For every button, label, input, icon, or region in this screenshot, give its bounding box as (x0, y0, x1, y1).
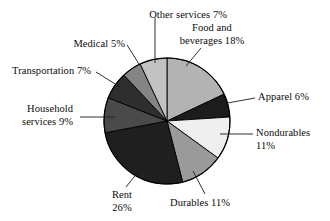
pie-label-medical: Medical 5% (0, 38, 125, 51)
pie-label-line1-nondurables: Nondurables (256, 127, 310, 140)
pie-label-line1-apparel: Apparel 6% (258, 91, 309, 104)
pie-label-line2-household-services: services 9% (0, 116, 73, 129)
pie-label-household-services: Householdservices 9% (0, 103, 73, 128)
leader-line-medical (127, 45, 139, 64)
pie-label-line1-other-services: Other services 7% (0, 9, 227, 22)
pie-label-rent: Rent26% (52, 189, 192, 214)
pie-label-line1-medical: Medical 5% (0, 38, 125, 51)
pie-chart-figure: Food andbeverages 18%Apparel 6%Nondurabl… (0, 0, 330, 221)
pie-label-line1-household-services: Household (0, 103, 73, 116)
pie-label-line1-transportation: Transportation 7% (0, 65, 91, 78)
pie-label-apparel: Apparel 6% (258, 91, 309, 104)
pie-label-food-and-beverages: Food andbeverages 18% (142, 22, 282, 47)
pie-label-line2-food-and-beverages: beverages 18% (142, 35, 282, 48)
pie-label-line1-food-and-beverages: Food and (142, 22, 282, 35)
pie-label-line2-nondurables: 11% (256, 140, 310, 153)
pie-label-transportation: Transportation 7% (0, 65, 91, 78)
leader-line-rent (126, 172, 138, 187)
leader-line-transportation (96, 72, 120, 87)
pie-label-line1-rent: Rent (52, 189, 192, 202)
pie-label-line2-rent: 26% (52, 202, 192, 215)
pie-label-nondurables: Nondurables11% (256, 127, 310, 152)
pie-label-other-services: Other services 7% (0, 9, 227, 22)
